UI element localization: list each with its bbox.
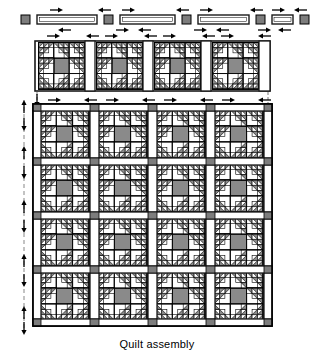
cornerstone-1 [21, 15, 30, 24]
block-r1-c1 [98, 110, 147, 158]
cornerstone-2 [104, 15, 113, 24]
cornerstone-4 [256, 15, 265, 24]
block-r0-c3 [213, 43, 259, 90]
block-r4-c3 [214, 272, 263, 320]
exploded-top-block-row [35, 33, 271, 91]
block-r2-c1 [98, 164, 147, 212]
quilt-body [33, 104, 272, 326]
block-r3-c3 [214, 218, 263, 266]
block-r2-c0 [40, 164, 89, 212]
cornerstone-3 [182, 15, 191, 24]
block-r2-c2 [156, 164, 205, 212]
block-r1-c3 [214, 110, 263, 158]
sashing-strip-1 [37, 15, 97, 24]
sashing-strip-2 [120, 15, 175, 24]
block-r2-c3 [214, 164, 263, 212]
sashing-strip-3 [198, 15, 249, 24]
block-r1-c0 [40, 110, 89, 158]
block-r3-c0 [40, 218, 89, 266]
block-r3-c1 [98, 218, 147, 266]
block-r0-c2 [155, 43, 201, 90]
top-sashing-row-visible [0, 0, 314, 33]
quilt-diagram-svg [0, 0, 314, 357]
block-r4-c2 [156, 272, 205, 320]
cornerstone-5 [300, 15, 309, 24]
figure-caption: Quilt assembly [0, 338, 314, 350]
sashing-strip-4 [272, 15, 293, 24]
block-r0-c0 [39, 43, 85, 90]
block-r4-c0 [40, 272, 89, 320]
block-r3-c2 [156, 218, 205, 266]
block-r0-c1 [97, 43, 143, 90]
block-r4-c1 [98, 272, 147, 320]
quilt-assembly-diagram: Quilt assembly [0, 0, 314, 357]
block-r1-c2 [156, 110, 205, 158]
